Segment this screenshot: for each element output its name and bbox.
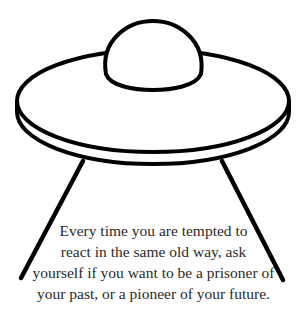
quote-line-1: Every time you are tempted to (0, 220, 307, 241)
quote-line-2: react in the same old way, ask (0, 241, 307, 262)
dome (105, 21, 201, 90)
quote-line-4: your past, or a pioneer of your future. (0, 283, 307, 304)
quote-text: Every time you are tempted to react in t… (0, 220, 307, 304)
quote-line-3: yourself if you want to be a prisoner of (0, 262, 307, 283)
